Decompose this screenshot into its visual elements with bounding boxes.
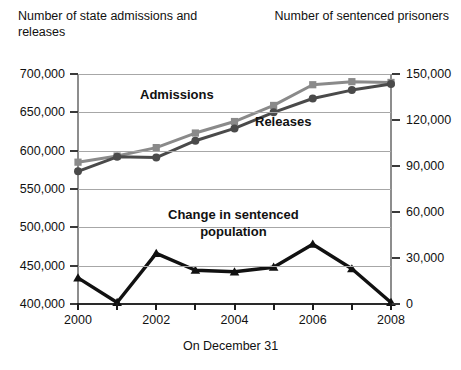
data-point-marker (191, 137, 199, 145)
x-tick-mark (155, 303, 157, 310)
data-point-marker (309, 81, 316, 88)
x-tick-label: 2008 (377, 313, 405, 327)
right-tick-mark (392, 165, 400, 167)
x-tick-label: 2000 (64, 313, 92, 327)
right-tick-label: 0 (406, 297, 413, 311)
right-tick-mark (392, 303, 400, 305)
series-label-change-line1: Change in sentenced (168, 206, 299, 223)
data-point-marker (309, 95, 317, 103)
x-tick-label: 2004 (221, 313, 249, 327)
right-tick-mark (392, 73, 400, 75)
series-label-admissions: Admissions (140, 87, 214, 102)
data-point-marker (231, 118, 238, 125)
series-label-change: Change in sentenced population (168, 206, 299, 240)
series-releases (74, 80, 395, 175)
left-tick-label: 650,000 (20, 105, 65, 119)
x-tick-mark (390, 303, 392, 310)
right-tick-label: 120,000 (406, 113, 451, 127)
series-label-change-line2: population (168, 223, 299, 240)
right-axis-title: Number of sentenced prisoners (269, 8, 449, 24)
data-point-marker (73, 273, 83, 281)
data-point-marker (74, 167, 82, 175)
gridline (78, 151, 391, 152)
series-label-releases: Releases (255, 114, 311, 129)
left-tick-mark (70, 188, 78, 190)
plot-area (78, 74, 391, 304)
left-tick-label: 450,000 (20, 259, 65, 273)
right-tick-mark (392, 257, 400, 259)
gridline (78, 189, 391, 190)
gridline (78, 74, 391, 75)
left-tick-label: 400,000 (20, 297, 65, 311)
left-tick-label: 550,000 (20, 182, 65, 196)
right-tick-label: 60,000 (406, 205, 444, 219)
x-tick-mark (77, 303, 79, 310)
series-change-in-sentenced-population (73, 240, 396, 306)
left-tick-mark (70, 226, 78, 228)
x-axis-title: On December 31 (0, 339, 461, 353)
left-tick-mark (70, 73, 78, 75)
right-tick-label: 90,000 (406, 159, 444, 173)
data-point-marker (192, 129, 199, 136)
right-tick-mark (392, 119, 400, 121)
right-tick-label: 30,000 (406, 251, 444, 265)
data-point-marker (152, 154, 160, 162)
x-tick-label: 2002 (142, 313, 170, 327)
data-point-marker (387, 80, 395, 88)
x-tick-label: 2006 (299, 313, 327, 327)
data-point-marker (348, 78, 355, 85)
data-point-marker (270, 102, 277, 109)
data-point-marker (231, 124, 239, 132)
left-tick-label: 500,000 (20, 220, 65, 234)
x-tick-mark (312, 303, 314, 310)
left-tick-mark (70, 111, 78, 113)
x-tick-mark (116, 303, 118, 310)
left-tick-label: 700,000 (20, 67, 65, 81)
data-point-marker (348, 86, 356, 94)
right-tick-mark (392, 211, 400, 213)
x-tick-mark (273, 303, 275, 310)
x-tick-mark (234, 303, 236, 310)
x-tick-mark (194, 303, 196, 310)
data-point-marker (151, 249, 161, 257)
x-tick-mark (351, 303, 353, 310)
gridline (78, 266, 391, 267)
chart-container: Number of state admissions and releases … (0, 0, 461, 370)
data-point-marker (74, 159, 81, 166)
gridline (78, 112, 391, 113)
right-tick-label: 150,000 (406, 67, 451, 81)
data-point-marker (113, 153, 121, 161)
left-axis-title: Number of state admissions and releases (18, 8, 238, 40)
left-tick-mark (70, 265, 78, 267)
left-tick-label: 600,000 (20, 144, 65, 158)
data-point-marker (308, 240, 318, 248)
left-tick-mark (70, 150, 78, 152)
